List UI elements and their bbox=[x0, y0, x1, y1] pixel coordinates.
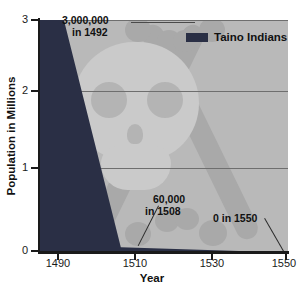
annotation-peak-line1: 3,000,000 bbox=[62, 14, 109, 26]
y-tick-1 bbox=[31, 167, 38, 169]
y-tick-0 bbox=[31, 250, 38, 252]
legend-label-taino-indians: Taino Indians bbox=[214, 31, 287, 43]
y-tick-2 bbox=[31, 90, 38, 92]
annotation-peak-line2: in 1492 bbox=[72, 26, 109, 38]
annotation-mid-line1: 60,000 bbox=[153, 193, 185, 205]
y-axis-title: Population in Millions bbox=[5, 21, 17, 251]
chart-figure: Taino Indians 3,000,000 in 1492 60,000 i… bbox=[0, 0, 304, 288]
annotation-end: 0 in 1550 bbox=[213, 212, 257, 224]
annotation-mid-line2: in 1508 bbox=[145, 205, 185, 217]
x-tick-label-1530: 1530 bbox=[189, 257, 235, 269]
legend-swatch-taino-indians bbox=[186, 33, 208, 42]
leader-line-peak bbox=[131, 22, 195, 23]
x-tick-label-1510: 1510 bbox=[112, 257, 158, 269]
x-axis-line bbox=[38, 251, 289, 254]
x-tick-label-1550: 1550 bbox=[261, 257, 304, 269]
annotation-peak: 3,000,000 in 1492 bbox=[62, 14, 109, 38]
legend: Taino Indians bbox=[186, 31, 287, 43]
y-tick-3 bbox=[31, 19, 38, 21]
x-axis-title: Year bbox=[0, 272, 304, 284]
x-tick-label-1490: 1490 bbox=[35, 257, 81, 269]
annotation-end-line1: 0 in 1550 bbox=[213, 212, 257, 224]
annotation-mid: 60,000 in 1508 bbox=[145, 193, 185, 217]
y-axis-line bbox=[38, 18, 40, 254]
